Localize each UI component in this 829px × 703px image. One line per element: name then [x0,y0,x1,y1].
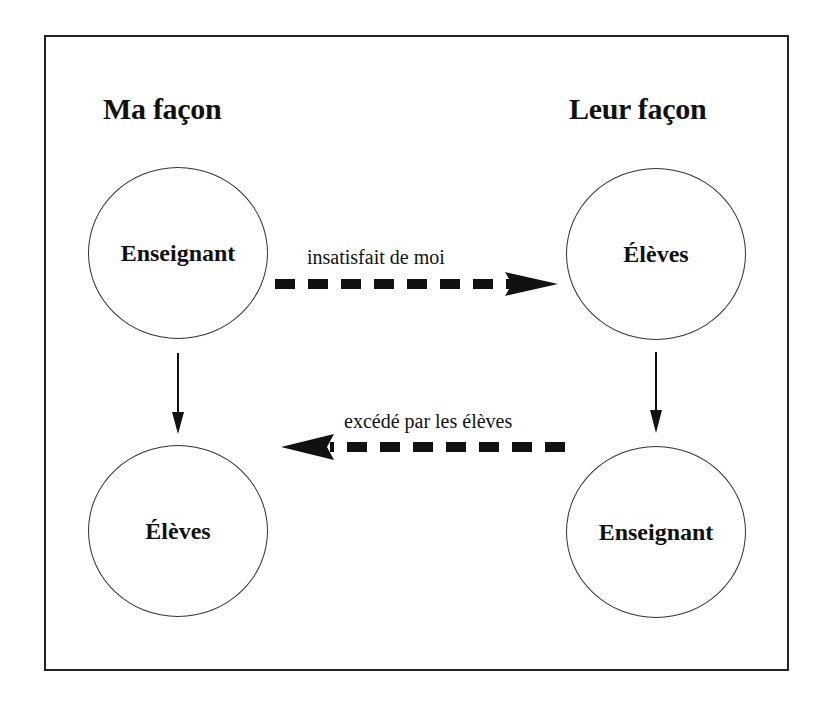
arrow-down-left-icon [172,353,184,434]
arrow-down-right-icon [650,352,662,433]
dashed-arrow-left-icon [281,434,565,460]
arrows-layer [0,0,829,703]
dashed-arrow-right-icon [275,272,558,296]
